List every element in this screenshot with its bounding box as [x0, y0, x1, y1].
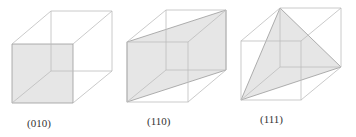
label-010: (010) — [27, 117, 51, 129]
label-110: (110) — [147, 115, 170, 127]
cube-110 — [127, 10, 226, 102]
cube-111 — [241, 8, 341, 100]
plane-111-fill — [241, 8, 341, 100]
label-111: (111) — [260, 113, 283, 125]
cube-010 — [12, 11, 112, 103]
plane-110-fill — [127, 10, 226, 102]
miller-planes-diagram — [0, 0, 356, 137]
plane-010-fill — [12, 44, 73, 103]
